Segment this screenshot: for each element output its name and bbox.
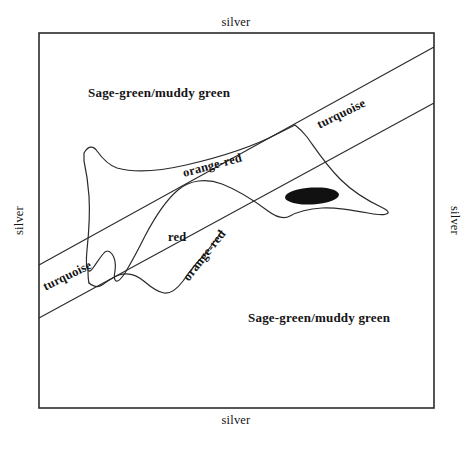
- edge-label-silver-top: silver: [186, 15, 286, 30]
- edge-label-silver-right: silver: [447, 191, 462, 251]
- diagram-canvas: [0, 0, 472, 450]
- edge-label-silver-left: silver: [12, 191, 27, 251]
- region-label-sage-green-top: Sage-green/muddy green: [88, 85, 230, 101]
- edge-label-silver-bottom: silver: [186, 413, 286, 428]
- region-label-sage-green-bottom: Sage-green/muddy green: [248, 310, 390, 326]
- band-lower-line: [39, 103, 434, 318]
- colour-region-diagram: silver silver silver silver Sage-green/m…: [0, 0, 472, 450]
- solid-black-ellipse: [285, 186, 340, 206]
- region-label-red: red: [168, 230, 186, 245]
- central-irregular-region: [84, 125, 388, 281]
